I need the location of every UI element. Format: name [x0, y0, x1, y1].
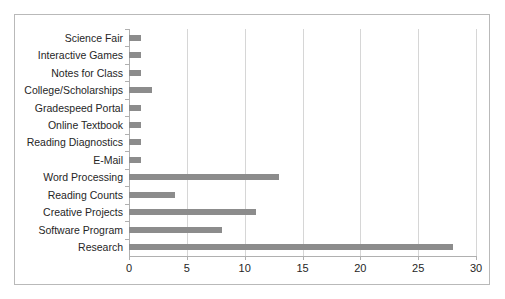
y-axis-tick [125, 64, 129, 65]
x-axis-tick [187, 256, 188, 260]
y-axis-tick [125, 221, 129, 222]
bar-row: Research [129, 239, 476, 256]
category-label: Interactive Games [38, 50, 123, 61]
y-axis-tick [125, 46, 129, 47]
bar-row: College/Scholarships [129, 81, 476, 98]
y-axis-tick [125, 151, 129, 152]
category-label: Reading Counts [48, 190, 123, 201]
bar [129, 87, 152, 93]
bar [129, 122, 141, 128]
bar-row: Science Fair [129, 29, 476, 46]
bar-row: Software Program [129, 221, 476, 238]
bar [129, 174, 279, 180]
bar-row: Reading Counts [129, 186, 476, 203]
category-label: Word Processing [43, 172, 123, 183]
x-axis-tick-label: 15 [296, 263, 308, 274]
bar [129, 139, 141, 145]
y-axis-tick [125, 99, 129, 100]
category-label: Science Fair [65, 32, 123, 43]
x-axis-tick-label: 30 [470, 263, 482, 274]
gridline-30 [476, 29, 477, 256]
category-label: Online Textbook [48, 120, 123, 131]
x-axis-tick [418, 256, 419, 260]
x-axis-tick [360, 256, 361, 260]
category-label: Software Program [38, 225, 123, 236]
y-axis-tick [125, 239, 129, 240]
bar [129, 227, 222, 233]
category-label: Research [78, 242, 123, 253]
x-axis-tick-label: 0 [126, 263, 132, 274]
plot-area: Science FairInteractive GamesNotes for C… [129, 29, 476, 256]
x-axis-tick-label: 5 [184, 263, 190, 274]
y-axis-tick [125, 116, 129, 117]
bar [129, 35, 141, 41]
category-label: College/Scholarships [24, 85, 123, 96]
category-label: Creative Projects [43, 207, 123, 218]
y-axis-tick [125, 134, 129, 135]
x-axis-tick-label: 25 [412, 263, 424, 274]
bar [129, 192, 175, 198]
x-axis-tick-label: 20 [354, 263, 366, 274]
y-axis-tick [125, 186, 129, 187]
y-axis-tick [125, 29, 129, 30]
x-axis-tick [476, 256, 477, 260]
category-label: Notes for Class [51, 67, 123, 78]
bar-row: Online Textbook [129, 116, 476, 133]
category-label: E-Mail [93, 155, 123, 166]
bar-row: Gradespeed Portal [129, 99, 476, 116]
bar-row: Notes for Class [129, 64, 476, 81]
bar [129, 209, 256, 215]
y-axis-tick [125, 81, 129, 82]
chart-frame: Science FairInteractive GamesNotes for C… [14, 14, 490, 285]
y-axis-tick [125, 169, 129, 170]
bar-row: Interactive Games [129, 46, 476, 63]
bar [129, 157, 141, 163]
category-label: Gradespeed Portal [35, 102, 123, 113]
bar-row: Reading Diagnostics [129, 134, 476, 151]
x-axis-tick [303, 256, 304, 260]
bar-row: E-Mail [129, 151, 476, 168]
bar [129, 70, 141, 76]
y-axis-tick [125, 204, 129, 205]
bar [129, 105, 141, 111]
x-axis-tick-label: 10 [239, 263, 251, 274]
bar [129, 52, 141, 58]
x-axis-tick [245, 256, 246, 260]
bar-row: Creative Projects [129, 204, 476, 221]
bar-row: Word Processing [129, 169, 476, 186]
bar [129, 244, 453, 250]
category-label: Reading Diagnostics [27, 137, 123, 148]
x-axis-tick [129, 256, 130, 260]
